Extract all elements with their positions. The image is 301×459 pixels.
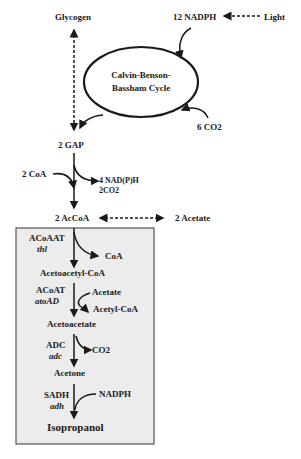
enzyme-adc: ADC bbox=[46, 340, 66, 350]
isopropanol-label: Isopropanol bbox=[47, 421, 104, 433]
co2-input-arrow bbox=[182, 108, 208, 118]
glycogen-label: Glycogen bbox=[55, 12, 91, 22]
light-label: Light bbox=[264, 12, 285, 22]
engineered-pathway-box bbox=[16, 228, 154, 444]
coa-input-arrow bbox=[53, 174, 74, 188]
acetyl-coa-out-label: Acetyl-CoA bbox=[93, 304, 138, 314]
co2-out-label: CO2 bbox=[92, 345, 111, 355]
cycle-label-1: Calvin-Benson- bbox=[111, 70, 171, 80]
isopropanol-pathway-diagram: Glycogen 12 NADPH Light Calvin-Benson- B… bbox=[0, 0, 301, 459]
coa-2-label: 2 CoA bbox=[22, 169, 47, 179]
nadph-input-arrow bbox=[180, 28, 191, 58]
acetoacetyl-coa-label: Acetoacetyl-CoA bbox=[40, 268, 105, 278]
gene-thl: thl bbox=[37, 244, 48, 254]
enzyme-acoaat: ACoAAT bbox=[29, 233, 65, 243]
gene-adc: adc bbox=[49, 351, 62, 361]
enzyme-sadh: SADH bbox=[44, 390, 69, 400]
acetate-2-label: 2 Acetate bbox=[175, 213, 210, 223]
nadph-4-label: 4 NAD(P)H bbox=[99, 176, 140, 185]
acetate-in-label: Acetate bbox=[92, 287, 121, 297]
acetone-label: Acetone bbox=[54, 368, 85, 378]
nadph-in-label: NADPH bbox=[99, 389, 131, 399]
acetoacetate-label: Acetoacetate bbox=[47, 319, 96, 329]
cycle-gap-arrow bbox=[80, 115, 103, 128]
gap-label: 2 GAP bbox=[58, 140, 84, 150]
gene-atoad: atoAD bbox=[35, 296, 60, 306]
cycle-label-2: Bassham Cycle bbox=[112, 83, 170, 93]
co2-6-label: 6 CO2 bbox=[197, 122, 222, 132]
coa-out-label: CoA bbox=[105, 251, 123, 261]
gene-adh: adh bbox=[50, 401, 64, 411]
accoa-label: 2 AcCoA bbox=[55, 213, 90, 223]
enzyme-acoat: ACoAT bbox=[36, 285, 65, 295]
nadph-co2-output-arrow bbox=[74, 165, 98, 181]
co2-2-label: 2CO2 bbox=[99, 186, 119, 195]
nadph-12-label: 12 NADPH bbox=[173, 12, 216, 22]
